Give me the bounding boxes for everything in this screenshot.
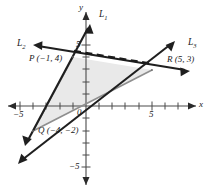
label-point-p: P (−1, 4) <box>29 54 62 63</box>
y-tick-label-neg5: −5 <box>69 162 80 171</box>
label-line-l3-subscript: 3 <box>193 42 196 49</box>
label-point-r: R (5, 3) <box>167 55 194 64</box>
line-l3-arrow-down <box>18 154 28 164</box>
y-tick-label-5: 5 <box>76 40 81 49</box>
label-line-l1-subscript: 1 <box>104 14 107 21</box>
label-line-l1: L1 <box>99 10 108 21</box>
y-axis-label: y <box>79 3 83 12</box>
coordinate-plane-svg <box>0 0 213 192</box>
y-axis-arrow-up <box>83 12 90 20</box>
x-axis-arrow-right <box>188 103 196 110</box>
origin-label: 0 <box>77 108 82 117</box>
line-l3-arrow-up <box>166 41 175 52</box>
label-line-l3: L3 <box>188 38 197 49</box>
line-l2-arrow-left <box>33 41 43 50</box>
label-point-q: Q (−4, −2) <box>38 126 78 135</box>
point-p-dot <box>72 56 74 58</box>
label-line-l2: L2 <box>17 39 26 50</box>
math-figure: L1 L2 L3 P (−1, 4) Q (−4, −2) R (5, 3) −… <box>0 0 213 192</box>
x-tick-label-neg5: −5 <box>13 110 24 119</box>
y-axis-arrow-down <box>83 177 90 185</box>
point-q-dot <box>32 130 34 132</box>
shaded-triangle-pqr <box>33 57 152 131</box>
point-r-dot <box>151 69 153 71</box>
label-line-l2-subscript: 2 <box>22 43 25 50</box>
x-tick-label-5: 5 <box>149 110 154 119</box>
x-axis-label: x <box>199 100 203 109</box>
line-l2-arrow-right <box>180 68 190 77</box>
